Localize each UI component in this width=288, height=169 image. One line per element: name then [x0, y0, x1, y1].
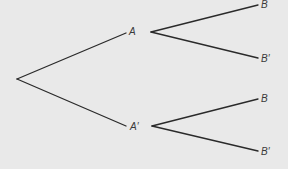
- branch-root-to-a: [17, 33, 126, 79]
- node-label-a-prime-b-prime: B′: [261, 147, 270, 157]
- branch-a-to-b: [151, 5, 258, 32]
- node-label-a: A: [129, 27, 136, 37]
- node-label-a-prime: A′: [130, 122, 139, 132]
- branch-a-prime-to-b-prime: [152, 126, 258, 151]
- branch-a-to-b-prime: [151, 32, 258, 58]
- node-label-a-prime-b: B: [261, 94, 268, 104]
- tree-diagram: A A′ B B′ B B′: [0, 0, 288, 169]
- tree-branches: [0, 0, 288, 169]
- node-label-a-b: B: [261, 0, 268, 10]
- branch-a-prime-to-b: [152, 99, 258, 126]
- branch-root-to-a-prime: [17, 79, 126, 126]
- node-label-a-b-prime: B′: [261, 54, 270, 64]
